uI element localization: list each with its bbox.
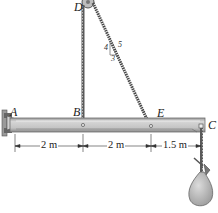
dimension-ec-label: 1.5 m	[162, 140, 188, 151]
cable-db	[82, 5, 85, 128]
cable-de	[93, 3, 151, 128]
label-point-e: E	[157, 107, 164, 119]
cable-c-bag	[200, 128, 203, 178]
slope-hypotenuse-label: 5	[118, 41, 122, 49]
label-point-d: D	[74, 1, 83, 13]
dimension-be-label: 2 m	[107, 140, 125, 151]
label-point-c: C	[208, 119, 216, 131]
slope-run-label: 3	[111, 55, 115, 63]
label-point-a: A	[10, 106, 17, 118]
diagram-canvas	[0, 0, 218, 213]
label-point-b: B	[73, 106, 80, 118]
beam	[10, 118, 205, 132]
dimension-ab-label: 2 m	[40, 140, 58, 151]
slope-rise-label: 4	[104, 44, 108, 52]
